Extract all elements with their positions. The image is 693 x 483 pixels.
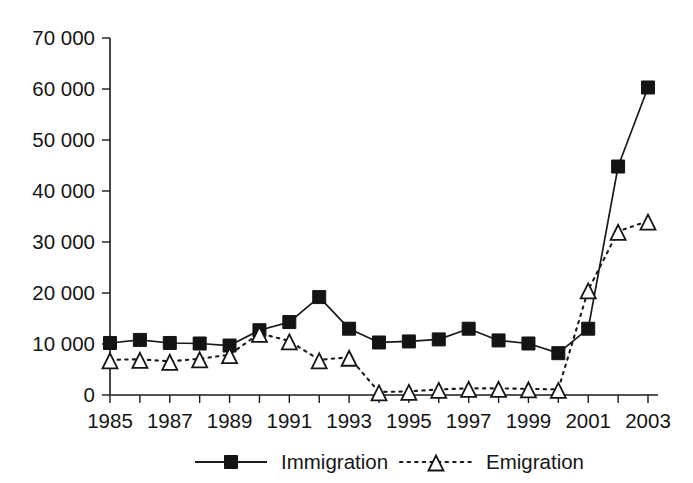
data-point [373,336,386,349]
data-point [522,337,535,350]
y-tick-label: 70 000 [32,26,95,49]
data-point [521,382,536,397]
data-point [312,353,327,368]
y-axis-tick-labels: 010 00020 00030 00040 00050 00060 00070 … [32,26,95,406]
x-tick-label: 2003 [625,409,671,432]
plot-area [103,81,656,400]
data-point [372,385,387,400]
data-point [282,334,297,349]
data-point [163,336,176,349]
data-point [552,347,565,360]
data-point [492,334,505,347]
data-point [641,215,656,230]
data-point [491,382,506,397]
data-point [103,353,118,368]
data-point [551,383,566,398]
legend-label: Emigration [486,450,584,473]
data-point [642,81,655,94]
data-point [612,160,625,173]
x-tick-label: 1995 [386,409,432,432]
legend-marker-square-icon [225,456,238,469]
x-tick-label: 1993 [326,409,372,432]
series-markers-emigration [103,215,656,401]
series-markers-immigration [104,81,655,360]
y-tick-label: 20 000 [32,281,95,304]
x-axis-tick-labels: 1985198719891991199319951997199920012003 [87,409,671,432]
x-tick-label: 1999 [506,409,552,432]
x-tick-label: 2001 [565,409,611,432]
x-tick-label: 1997 [446,409,492,432]
data-point [402,335,415,348]
series-line-immigration [110,87,648,353]
y-tick-label: 30 000 [32,230,95,253]
data-point [313,291,326,304]
y-tick-label: 50 000 [32,128,95,151]
x-tick-label: 1985 [87,409,133,432]
data-point [462,322,475,335]
data-point [104,336,117,349]
data-point [193,337,206,350]
chart-legend: ImmigrationEmigration [195,450,584,473]
data-point [431,383,446,398]
legend-entry-immigration: Immigration [195,450,388,473]
legend-entry-emigration: Emigration [400,450,584,473]
data-point [401,385,416,400]
data-point [162,355,177,370]
legend-label: Immigration [281,450,388,473]
data-point [461,382,476,397]
x-tick-label: 1991 [267,409,313,432]
data-point [582,322,595,335]
data-point [611,225,626,240]
x-tick-label: 1989 [207,409,253,432]
line-chart: 010 00020 00030 00040 00050 00060 00070 … [0,0,693,483]
data-point [283,316,296,329]
data-point [343,322,356,335]
y-tick-label: 60 000 [32,77,95,100]
chart-container: 010 00020 00030 00040 00050 00060 00070 … [0,0,693,483]
data-point [581,283,596,298]
y-tick-label: 0 [84,383,95,406]
y-tick-label: 10 000 [32,332,95,355]
data-point [432,333,445,346]
series-line-emigration [110,221,648,392]
y-axis-group: 010 00020 00030 00040 00050 00060 00070 … [32,26,110,406]
data-point [342,351,357,366]
x-tick-label: 1987 [147,409,193,432]
data-point [133,333,146,346]
y-tick-label: 40 000 [32,179,95,202]
